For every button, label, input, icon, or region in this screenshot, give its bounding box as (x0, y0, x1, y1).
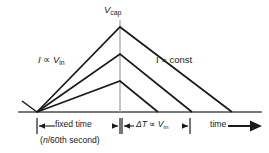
capacitor-ramp-diagram: Vcap I ∝ Vin I = const fixed time (n/60t… (0, 0, 269, 153)
ramp-small (37, 81, 158, 112)
time-axis-label: time (210, 120, 226, 129)
delta-t-symbol: ΔT (136, 119, 147, 129)
delta-t-label: ΔT ∝ Vin (136, 120, 168, 129)
delta-voltage-symbol: V (158, 119, 164, 129)
arrow-right-delta-t (182, 123, 188, 129)
entry-stub-line (22, 101, 37, 112)
delta-voltage-subscript: in (164, 123, 169, 130)
arrow-left-delta-t (124, 123, 130, 129)
fall-slope-text: I = const (156, 54, 192, 65)
rise-voltage-subscript: in (59, 59, 64, 66)
arrow-left-fixed-time (39, 123, 45, 129)
ramp-large (37, 27, 232, 112)
time-axis-arrow (228, 121, 262, 132)
fall-slope-label: I = const (156, 55, 192, 65)
diagram-canvas (0, 0, 269, 153)
rise-slope-label: I ∝ Vin (38, 55, 65, 65)
fixed-time-detail-label: (n/60th second) (40, 136, 100, 145)
fixed-time-detail-rest: /60th second) (48, 135, 100, 145)
proportional-icon: ∝ (43, 54, 50, 65)
arrow-right-fixed-time (112, 123, 118, 129)
peak-voltage-subscript: cap (110, 9, 121, 16)
peak-voltage-label: Vcap (104, 5, 121, 15)
fixed-time-label: fixed time (55, 120, 92, 129)
rise-current-symbol: I (38, 54, 41, 65)
delta-proportional-icon: ∝ (149, 119, 155, 129)
